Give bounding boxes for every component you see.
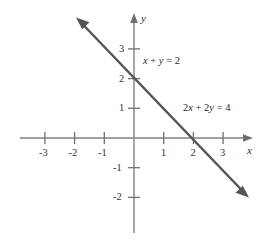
y-tick-label-3: 3	[119, 44, 124, 55]
y-axis-label: y	[141, 13, 146, 24]
coordinate-graph-figure: -3 -2 -1 1 2 3 3 2 1 -1 -2 y x x + y = 2…	[0, 0, 265, 242]
y-axis-arrowhead	[130, 13, 138, 23]
x-tick-label-2: 2	[191, 148, 196, 159]
equation-label-x-plus-y: x + y = 2	[143, 56, 180, 67]
x-tick-label-1: 1	[161, 148, 166, 159]
x-tick-label--1: -1	[98, 148, 107, 159]
graph-line-arrowhead-lower-right	[236, 186, 250, 198]
y-tick-label-1: 1	[119, 103, 124, 114]
y-tick-label--1: -1	[113, 163, 122, 174]
graph-canvas	[0, 0, 265, 242]
x-tick-label--3: -3	[39, 148, 48, 159]
eq1-rhs: 2	[175, 55, 180, 66]
x-axis-label: x	[247, 145, 252, 156]
eq2-plus: +	[193, 102, 204, 113]
eq2-equals: =	[214, 102, 225, 113]
x-axis-arrowhead	[243, 134, 253, 142]
eq1-equals: =	[164, 55, 175, 66]
eq2-rhs: 4	[225, 102, 230, 113]
equation-label-2x-plus-2y: 2x + 2y = 4	[183, 103, 230, 114]
x-tick-label--2: -2	[69, 148, 78, 159]
graph-line-arrowhead-upper-left	[76, 18, 90, 30]
x-tick-label-3: 3	[220, 148, 225, 159]
y-tick-label--2: -2	[113, 192, 122, 203]
y-tick-label-2: 2	[119, 74, 124, 85]
eq1-plus: +	[148, 55, 159, 66]
